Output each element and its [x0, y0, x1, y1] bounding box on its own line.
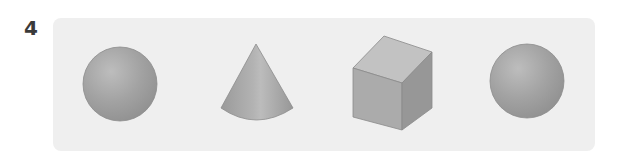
- sphere-shape-1: [83, 47, 157, 121]
- sphere-shape-2: [490, 44, 564, 118]
- cone-shape: [221, 44, 293, 120]
- shapes-illustration: [0, 0, 625, 161]
- cube-shape: [353, 36, 432, 130]
